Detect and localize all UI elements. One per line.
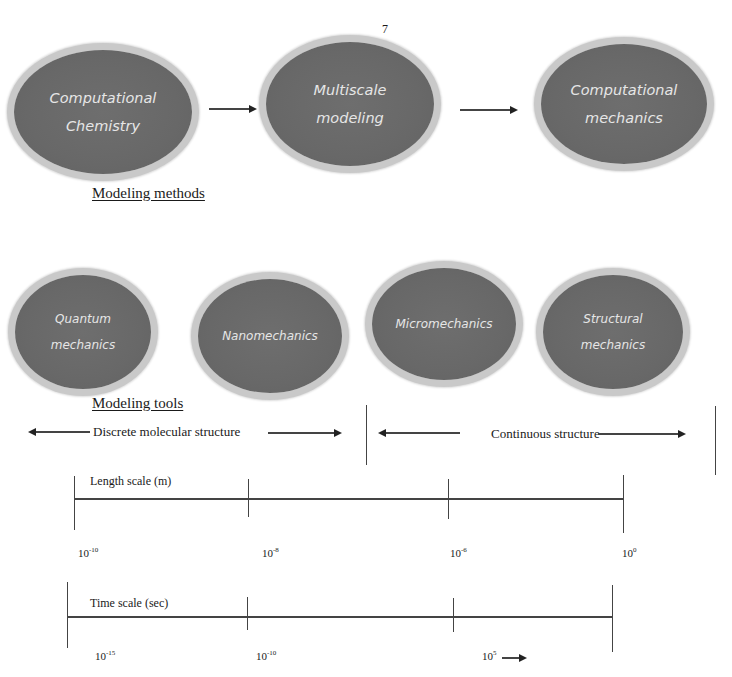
length-tick: [74, 476, 75, 530]
node-label-line1: Computational: [571, 83, 678, 98]
arrow-left-icon: [378, 429, 386, 437]
arrow-right-icon: [519, 654, 527, 662]
length-scale-axis: [74, 498, 623, 500]
arrow-line: [598, 433, 678, 435]
time-tick: [453, 598, 454, 632]
arrow-right-icon: [510, 106, 518, 114]
node-label-line1: Quantum: [55, 313, 111, 325]
arrow-line: [502, 657, 520, 659]
arrow-right-icon: [249, 105, 257, 113]
length-tick: [623, 475, 624, 533]
node-label-line1: Structural: [583, 313, 642, 325]
node-label-line2: mechanics: [585, 111, 663, 126]
node-label-line2: modeling: [316, 111, 384, 126]
time-tick-label: 10-10: [256, 649, 276, 662]
time-tick: [612, 585, 613, 652]
length-tick: [448, 479, 449, 519]
node-label-line2: mechanics: [51, 339, 115, 351]
length-tick-label: 10-6: [450, 546, 467, 559]
length-tick: [248, 479, 249, 517]
node-label-line1: Micromechanics: [396, 318, 493, 330]
arrow-line: [209, 108, 249, 110]
node-label-line1: Multiscale: [314, 83, 387, 98]
node-quantum-mechanics: Quantum mechanics: [15, 275, 151, 389]
node-label-line1: Nanomechanics: [222, 330, 318, 342]
node-label-line1: Computational: [50, 91, 157, 106]
arrow-line: [460, 109, 510, 111]
time-scale-label: Time scale (sec): [90, 596, 168, 611]
arrow-right-icon: [678, 430, 686, 438]
divider-line: [366, 405, 367, 465]
arrow-line: [36, 431, 90, 433]
time-tick-label: 105: [482, 649, 497, 662]
node-micromechanics: Micromechanics: [372, 268, 516, 380]
time-tick: [247, 597, 248, 630]
length-scale-label: Length scale (m): [90, 474, 171, 489]
time-scale-axis: [67, 616, 612, 618]
length-tick-label: 100: [622, 546, 637, 559]
time-tick-label: 10-15: [95, 649, 115, 662]
node-label-line2: Chemistry: [66, 119, 140, 134]
time-tick: [67, 582, 68, 648]
arrow-left-icon: [28, 428, 36, 436]
node-computational-chemistry: Computational Chemistry: [14, 50, 192, 174]
length-tick-label: 10-8: [262, 546, 279, 559]
node-label-line2: mechanics: [581, 339, 645, 351]
continuous-structure-label: Continuous structure: [491, 426, 600, 442]
modeling-methods-heading: Modeling methods: [92, 185, 205, 202]
discrete-structure-label: Discrete molecular structure: [93, 424, 240, 440]
node-multiscale-modeling: Multiscale modeling: [266, 42, 434, 166]
arrow-line: [268, 432, 334, 434]
arrow-right-icon: [334, 429, 342, 437]
node-nanomechanics: Nanomechanics: [198, 279, 342, 393]
page-number: 7: [382, 22, 388, 37]
arrow-line: [386, 432, 460, 434]
node-computational-mechanics: Computational mechanics: [541, 44, 707, 164]
length-tick-label: 10-10: [78, 546, 98, 559]
modeling-tools-heading: Modeling tools: [92, 395, 183, 412]
divider-line: [715, 406, 716, 475]
node-structural-mechanics: Structural mechanics: [543, 275, 683, 389]
